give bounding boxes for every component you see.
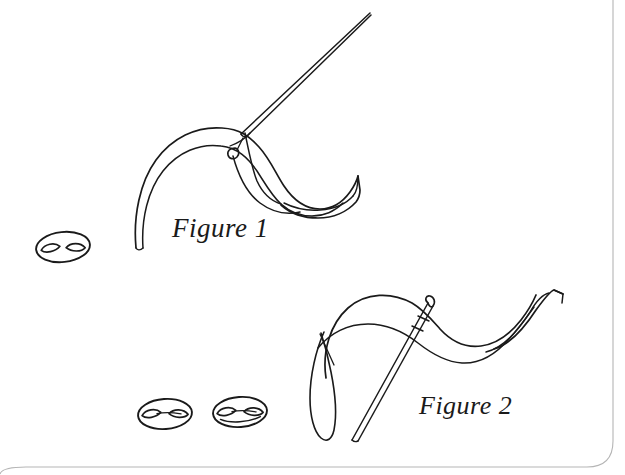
figure-2-ribbon-curl-outer [494, 290, 563, 349]
figure-2-ribbon-lower-edge [318, 307, 534, 363]
figure-2-ribbon-hanging-loop [310, 332, 335, 440]
figure-2-needle-tip [352, 440, 358, 442]
figure-1-ribbon-tapered-tail [136, 248, 143, 250]
bead-outline [137, 397, 193, 431]
figure-2-ribbon-curl-cap [554, 290, 563, 303]
bead-inner-left [41, 243, 61, 253]
illustration-page: Figure 1 Figure 2 [0, 0, 625, 475]
figure-1-caption: Figure 1 [172, 213, 269, 244]
bead-left [35, 229, 92, 264]
figure-2-caption: Figure 2 [419, 391, 512, 421]
bead-extra-arc [220, 417, 260, 424]
bead-bottom-2 [212, 395, 268, 429]
figure-1-needle-shaft-left [241, 13, 370, 134]
figure-1-needle-shaft-right [246, 15, 371, 137]
figure-2-ribbon-curl-inner [486, 293, 549, 352]
bead-inner-right [66, 243, 86, 253]
illustration-canvas [0, 0, 625, 475]
bead-group [35, 229, 268, 431]
bead-bottom-1 [137, 397, 193, 431]
bead-outline [212, 395, 268, 429]
